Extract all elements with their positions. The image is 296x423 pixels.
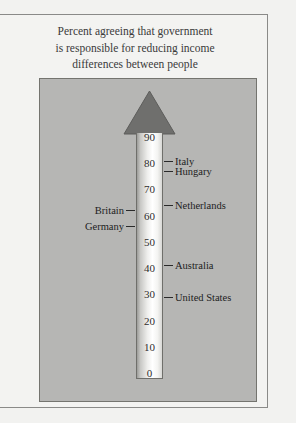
figure-container: Percent agreeing that government is resp… bbox=[0, 0, 296, 423]
up-arrow-icon bbox=[123, 90, 176, 135]
leader-tick-germany bbox=[126, 226, 135, 227]
country-label-united-states: United States bbox=[175, 291, 231, 302]
scale-tick-10: 10 bbox=[136, 341, 163, 353]
chart-title-line-2: is responsible for reducing income bbox=[10, 40, 260, 57]
scale-tick-80: 80 bbox=[136, 157, 163, 169]
plot-panel: 9080706050403020100 ItalyHungaryNetherla… bbox=[39, 78, 257, 402]
country-label-britain: Britain bbox=[95, 205, 124, 216]
scale-tick-20: 20 bbox=[136, 315, 163, 327]
arrow-scale-graphic: 9080706050403020100 ItalyHungaryNetherla… bbox=[136, 90, 163, 386]
leader-tick-hungary bbox=[164, 171, 173, 172]
scale-tick-40: 40 bbox=[136, 262, 163, 274]
leader-tick-netherlands bbox=[164, 205, 173, 206]
scale-tick-0: 0 bbox=[136, 367, 163, 379]
chart-title-line-1: Percent agreeing that government bbox=[10, 23, 260, 40]
chart-title-line-3: differences between people bbox=[10, 56, 260, 73]
leader-tick-italy bbox=[164, 161, 173, 162]
leader-tick-britain bbox=[126, 210, 135, 211]
country-label-italy: Italy bbox=[175, 155, 194, 166]
leader-tick-australia bbox=[164, 265, 173, 266]
scale-tick-70: 70 bbox=[136, 183, 163, 195]
leader-tick-united-states bbox=[164, 297, 173, 298]
country-label-germany: Germany bbox=[85, 221, 124, 232]
chart-title: Percent agreeing that government is resp… bbox=[10, 23, 260, 73]
scale-tick-60: 60 bbox=[136, 210, 163, 222]
scale-tick-50: 50 bbox=[136, 236, 163, 248]
scale-tick-90: 90 bbox=[136, 131, 163, 143]
country-label-netherlands: Netherlands bbox=[175, 200, 226, 211]
scale-tick-30: 30 bbox=[136, 288, 163, 300]
country-label-hungary: Hungary bbox=[175, 166, 212, 177]
country-label-australia: Australia bbox=[175, 260, 214, 271]
